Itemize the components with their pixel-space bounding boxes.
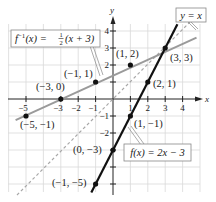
y-tick-label: 2 — [105, 60, 110, 70]
y-axis-arrow-icon — [111, 16, 116, 24]
point-label: (2, 1) — [153, 78, 176, 90]
point-label: (−3, 0) — [36, 81, 65, 93]
point-m3-0 — [58, 96, 63, 101]
point-label: (1, −1) — [134, 118, 163, 130]
point-1-m1 — [128, 113, 133, 118]
x-tick-label: 3 — [163, 103, 168, 113]
point-label: (−5, −1) — [20, 119, 55, 131]
x-tick-label: −1 — [88, 103, 98, 113]
inverse-label-rest: (x + 3) — [65, 33, 95, 45]
point-label: (−1, 1) — [64, 68, 93, 80]
function-label: f(x) = 2x − 3 — [130, 147, 184, 159]
x-tick-label: −3 — [53, 103, 63, 113]
x-tick-label: −2 — [71, 103, 81, 113]
point-2-1 — [145, 79, 150, 84]
function-label-box: f(x) = 2x − 3 — [124, 126, 191, 161]
point-m1-m5 — [93, 181, 98, 186]
point-m5-m1 — [23, 113, 28, 118]
point-3-3 — [163, 45, 168, 50]
function-inverse-graph: x y −5 −3 −2 −1 1 2 3 4 4 3 2 −1 −2 (−1 — [0, 0, 216, 202]
point-label: (0, −3) — [73, 144, 102, 156]
point-1-2 — [128, 62, 133, 67]
x-tick-label: 2 — [146, 103, 151, 113]
point-label: (1, 2) — [116, 48, 139, 60]
identity-label: y = x — [179, 10, 202, 21]
point-m1-1 — [93, 79, 98, 84]
y-tick-label: −2 — [99, 128, 109, 138]
x-tick-label: −5 — [18, 103, 28, 113]
inverse-label-num: 1 — [59, 31, 62, 38]
x-axis-label: x — [204, 94, 209, 104]
y-tick-label: 3 — [105, 43, 110, 53]
y-tick-label: −1 — [99, 111, 109, 121]
point-label: (3, 3) — [170, 52, 193, 64]
inverse-label-eq: (x) = — [25, 33, 46, 45]
x-axis-arrow-icon — [195, 97, 203, 102]
point-0-m3 — [110, 147, 115, 152]
point-label: (−1, −5) — [52, 177, 87, 189]
y-axis-label: y — [109, 5, 114, 15]
x-tick-label: 4 — [180, 103, 185, 113]
inverse-label-den: 2 — [59, 39, 62, 46]
identity-label-box: y = x — [176, 8, 206, 30]
y-tick-label: 4 — [105, 26, 110, 36]
